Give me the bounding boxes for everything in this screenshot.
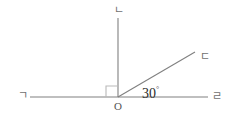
angle-measure-label: 30° <box>142 83 159 101</box>
angle-measure-value: 30 <box>142 86 156 101</box>
vertex-label-o: O <box>114 101 122 112</box>
right-angle-mark-icon <box>106 86 118 97</box>
point-label-giyeok: ㄱ <box>18 90 28 101</box>
point-label-digeut: ㄷ <box>200 51 210 62</box>
point-label-nieun: ㄴ <box>114 5 124 16</box>
geometry-diagram-canvas: ㄱ ㄴ ㄷ ㄹ O 30° <box>0 0 230 123</box>
point-label-rieul: ㄹ <box>212 91 222 102</box>
degree-symbol: ° <box>156 85 159 94</box>
